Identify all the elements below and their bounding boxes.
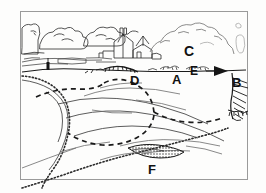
sketch-canvas: [0, 0, 266, 193]
paper-background: [0, 0, 266, 193]
label-D: D: [130, 74, 139, 87]
label-F: F: [148, 163, 156, 176]
label-C: C: [184, 44, 194, 58]
label-B: B: [232, 76, 241, 89]
label-A: A: [172, 73, 181, 86]
landscape-sketch-figure: A B C D E F: [0, 0, 266, 193]
label-E: E: [190, 65, 198, 77]
